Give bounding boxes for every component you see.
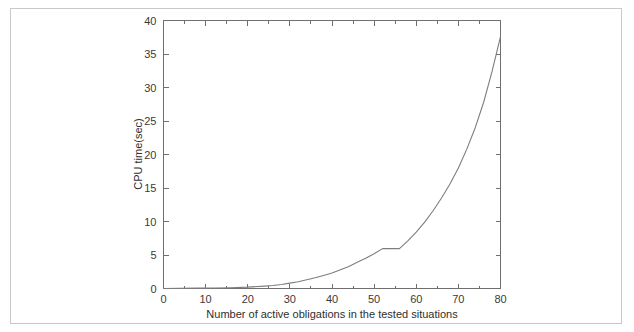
chart-page: 01020304050607080 0510152025303540 Numbe… <box>0 0 634 332</box>
axis-ticks <box>164 21 501 289</box>
y-tick-label: 5 <box>150 249 156 261</box>
x-axis-title: Number of active obligations in the test… <box>206 308 458 320</box>
x-tick-label: 30 <box>284 293 296 305</box>
x-tick-label: 70 <box>452 293 464 305</box>
y-tick-labels: 0510152025303540 <box>144 15 156 295</box>
y-tick-label: 35 <box>144 48 156 60</box>
plot-frame <box>164 21 501 289</box>
y-tick-label: 10 <box>144 216 156 228</box>
x-tick-label: 10 <box>200 293 212 305</box>
x-tick-label: 80 <box>494 293 506 305</box>
y-tick-label: 20 <box>144 149 156 161</box>
data-series-group <box>164 37 501 289</box>
x-tick-label: 40 <box>326 293 338 305</box>
y-tick-label: 0 <box>150 283 156 295</box>
y-tick-label: 30 <box>144 82 156 94</box>
cpu-time-line-chart: 01020304050607080 0510152025303540 Numbe… <box>0 0 634 332</box>
x-tick-label: 60 <box>410 293 422 305</box>
y-tick-label: 40 <box>144 15 156 27</box>
y-tick-label: 15 <box>144 182 156 194</box>
x-tick-label: 50 <box>368 293 380 305</box>
x-tick-label: 0 <box>160 293 166 305</box>
y-tick-label: 25 <box>144 115 156 127</box>
data-series-line <box>164 37 501 289</box>
x-tick-label: 20 <box>242 293 254 305</box>
chart-figure: 01020304050607080 0510152025303540 Numbe… <box>0 0 634 332</box>
y-axis-title: CPU time(sec) <box>132 118 144 190</box>
x-tick-labels: 01020304050607080 <box>160 293 506 305</box>
